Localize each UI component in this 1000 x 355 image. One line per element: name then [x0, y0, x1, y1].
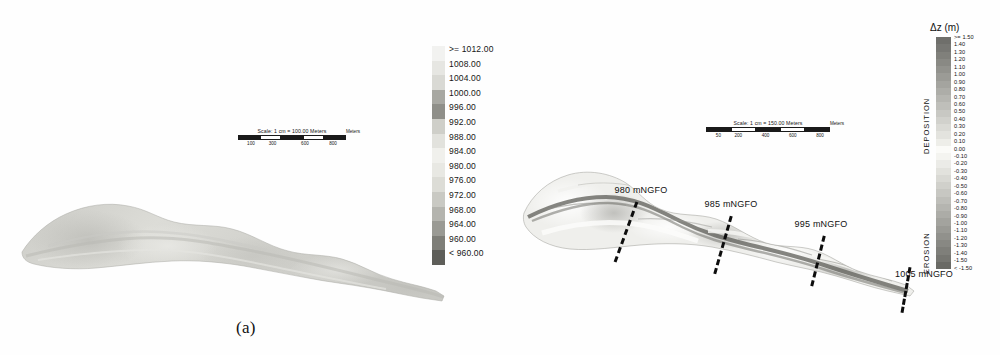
dz-label-23: -0.80 [954, 205, 998, 212]
dz-label-11: 0.40 [954, 116, 998, 123]
elevation-swatch-8 [432, 163, 445, 178]
scalebar-b-ticks: 50 200 400 600 800 [706, 132, 830, 141]
dz-swatch-13 [936, 131, 951, 138]
dz-label-14: 0.10 [954, 138, 998, 145]
elevation-label-2: 1004.00 [449, 71, 507, 86]
elevation-label-5: 992.00 [449, 115, 507, 130]
dz-colorbar-labels: >= 1.501.401.301.201.101.000.900.800.700… [954, 34, 998, 272]
scalebar-b-tick-2: 400 [762, 133, 770, 138]
elevation-swatch-4 [432, 104, 445, 119]
elevation-swatch-2 [432, 75, 445, 90]
dem-map-panel-a [18, 160, 448, 310]
dz-label-26: -1.10 [954, 227, 998, 234]
dz-swatch-31 [936, 262, 951, 269]
dz-swatch-23 [936, 204, 951, 211]
dz-swatch-8 [936, 95, 951, 102]
dz-label-17: -0.20 [954, 160, 998, 167]
dz-label-28: -1.30 [954, 242, 998, 249]
elevation-label-10: 972.00 [449, 188, 507, 203]
dz-label-9: 0.60 [954, 101, 998, 108]
elevation-label-14: < 960.00 [449, 246, 507, 261]
panel-b: 980 mNGFO985 mNGFO995 mNGFO1005 mNGFO Sc… [510, 0, 1000, 355]
elevation-swatch-9 [432, 177, 445, 192]
dz-swatch-4 [936, 66, 951, 73]
elevation-swatch-6 [432, 134, 445, 149]
elevation-swatch-14 [432, 250, 445, 265]
dz-swatch-16 [936, 153, 951, 160]
dz-label-5: 1.00 [954, 71, 998, 78]
dz-label-7: 0.80 [954, 86, 998, 93]
scalebar-b-unit: Meters [830, 121, 844, 126]
scalebar-a-ticks: 100 300 600 800 [238, 140, 346, 149]
dz-label-24: -0.90 [954, 213, 998, 220]
dz-label-12: 0.30 [954, 123, 998, 130]
dz-swatch-18 [936, 168, 951, 175]
difference-b-body [518, 155, 918, 300]
dz-label-18: -0.30 [954, 168, 998, 175]
dz-swatch-21 [936, 189, 951, 196]
dz-swatch-29 [936, 247, 951, 254]
dz-label-30: -1.50 [954, 257, 998, 264]
scalebar-b-tick-0: 50 [716, 133, 721, 138]
dz-swatch-26 [936, 226, 951, 233]
elevation-label-6: 988.00 [449, 130, 507, 145]
scalebar-a-title: Scale: 1 cm = 100.00 Meters [238, 128, 346, 134]
elevation-label-13: 960.00 [449, 232, 507, 247]
dz-label-13: 0.20 [954, 131, 998, 138]
scalebar-a-tick-0: 100 [247, 141, 255, 146]
dz-label-20: -0.50 [954, 183, 998, 190]
dz-swatch-20 [936, 182, 951, 189]
elevation-swatch-3 [432, 90, 445, 105]
dz-swatch-1 [936, 44, 951, 51]
dz-swatch-27 [936, 233, 951, 240]
scalebar-panel-a: Scale: 1 cm = 100.00 Meters Meters 100 3… [238, 128, 346, 149]
dz-swatch-19 [936, 175, 951, 182]
dz-label-2: 1.30 [954, 49, 998, 56]
scalebar-a-unit: Meters [346, 129, 360, 134]
elevation-label-11: 968.00 [449, 203, 507, 218]
dz-colorbar-bar [936, 37, 951, 269]
dz-swatch-17 [936, 160, 951, 167]
dz-label-31: < -1.50 [954, 265, 998, 272]
dz-swatch-14 [936, 139, 951, 146]
elevation-swatch-12 [432, 221, 445, 236]
figure-root: Scale: 1 cm = 100.00 Meters Meters 100 3… [0, 0, 1000, 355]
dz-swatch-30 [936, 255, 951, 262]
panel-a: Scale: 1 cm = 100.00 Meters Meters 100 3… [0, 0, 510, 355]
cross-section-label-2: 995 mNGFO [795, 219, 848, 229]
scalebar-b-title: Scale: 1 cm = 150.00 Meters [706, 120, 830, 126]
dz-swatch-6 [936, 81, 951, 88]
erosion-label: EROSION [922, 232, 931, 274]
scalebar-b-tick-1: 200 [734, 133, 742, 138]
dz-label-6: 0.90 [954, 79, 998, 86]
dz-swatch-28 [936, 240, 951, 247]
dz-swatch-2 [936, 52, 951, 59]
elevation-label-8: 980.00 [449, 159, 507, 174]
dz-swatch-24 [936, 211, 951, 218]
elevation-swatch-13 [432, 236, 445, 251]
elevation-label-12: 964.00 [449, 217, 507, 232]
elevation-swatch-7 [432, 148, 445, 163]
elevation-legend-labels: >= 1012.001008.001004.001000.00996.00992… [449, 42, 507, 261]
dz-swatch-3 [936, 59, 951, 66]
dz-swatch-15 [936, 146, 951, 153]
elevation-swatch-1 [432, 61, 445, 76]
dz-label-10: 0.50 [954, 108, 998, 115]
elevation-label-7: 984.00 [449, 144, 507, 159]
elevation-legend-ramp [432, 46, 445, 265]
dz-swatch-9 [936, 102, 951, 109]
elevation-swatch-11 [432, 207, 445, 222]
panel-a-caption: (a) [236, 318, 256, 338]
dz-label-3: 1.20 [954, 56, 998, 63]
dz-colorbar-title: Δz (m) [930, 22, 959, 33]
scalebar-b-tick-3: 600 [789, 133, 797, 138]
dz-label-27: -1.20 [954, 235, 998, 242]
dz-label-22: -0.70 [954, 198, 998, 205]
dz-label-29: -1.40 [954, 250, 998, 257]
elevation-swatch-0 [432, 46, 445, 61]
dz-swatch-0 [936, 37, 951, 44]
scalebar-b-tick-4: 800 [816, 133, 824, 138]
dz-label-15: 0.00 [954, 146, 998, 153]
dz-label-1: 1.40 [954, 41, 998, 48]
elevation-swatch-5 [432, 119, 445, 134]
